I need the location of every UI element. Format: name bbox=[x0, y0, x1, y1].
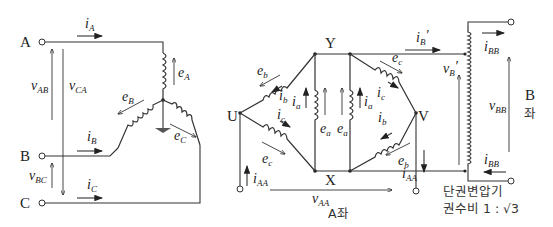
node-y-label: Y bbox=[325, 35, 336, 51]
label-vab: vAB bbox=[31, 78, 49, 95]
ground-icon bbox=[155, 128, 171, 133]
coil-uy bbox=[240, 54, 315, 113]
left-three-phase-source: A B C iA iB iC vAB vCA vBC eA bbox=[20, 16, 200, 211]
current-arrow-ic-right bbox=[388, 82, 398, 88]
label-ia-left: ia bbox=[292, 94, 301, 111]
label-iaa-left: iAA bbox=[253, 171, 268, 188]
autotransformer-caption: 단권변압기 bbox=[443, 184, 503, 199]
turns-ratio-caption: 권수비 1 : √3 bbox=[443, 201, 519, 216]
wire-b bbox=[45, 148, 118, 156]
terminal-aa-right bbox=[413, 188, 419, 194]
node-v-label: V bbox=[418, 108, 429, 124]
label-ibb-bottom: iBB bbox=[484, 152, 499, 169]
wire-b-top bbox=[468, 22, 508, 26]
autotransformer-coil bbox=[468, 26, 471, 166]
label-ic-right: ic bbox=[377, 85, 385, 102]
label-ea-left: ea bbox=[320, 121, 331, 138]
coil-ea-left bbox=[315, 54, 318, 171]
terminal-bb-top bbox=[508, 19, 514, 25]
terminal-bb-bottom bbox=[508, 178, 514, 184]
node-x-label: X bbox=[325, 172, 336, 188]
label-ib: iB bbox=[87, 129, 97, 146]
label-ec: eC bbox=[174, 128, 187, 145]
label-vbc: vBC bbox=[29, 168, 48, 185]
terminal-c-label: C bbox=[20, 195, 30, 211]
terminal-c bbox=[39, 200, 45, 206]
wire-c bbox=[45, 145, 200, 203]
label-ia: iA bbox=[85, 16, 95, 33]
label-iaa-right-text: iAA bbox=[402, 166, 417, 183]
label-ic: iC bbox=[87, 177, 98, 194]
middle-transformer-network: Y U V X eb ec i bbox=[227, 28, 465, 221]
label-ib-prime: iB′ bbox=[416, 28, 429, 47]
label-vca: vCA bbox=[69, 78, 87, 95]
terminal-a-label: A bbox=[20, 34, 31, 50]
terminal-b-label: B bbox=[20, 148, 30, 164]
label-ib-left: ib bbox=[279, 88, 288, 105]
label-eb-left: eb bbox=[257, 63, 268, 80]
label-vb-prime: vB′ bbox=[443, 59, 459, 78]
coil-ea-right bbox=[350, 54, 353, 171]
current-arrow-ib-right bbox=[381, 133, 392, 139]
terminal-aa-left bbox=[237, 186, 243, 192]
coil-b bbox=[118, 100, 163, 148]
label-ec-left: ec bbox=[262, 151, 272, 168]
seat-a-label: A좌 bbox=[328, 206, 349, 221]
terminal-b bbox=[39, 153, 45, 159]
seat-b-label-kr: 좌 bbox=[524, 106, 536, 121]
seat-b-label: B bbox=[525, 87, 535, 103]
label-ic-left: ic bbox=[277, 107, 285, 124]
transformer-circuit-diagram: A B C iA iB iC vAB vCA vBC eA bbox=[0, 0, 553, 227]
label-vbb: vBB bbox=[489, 98, 507, 115]
label-ea-right: ea bbox=[337, 121, 348, 138]
terminal-a bbox=[39, 39, 45, 45]
coil-a bbox=[163, 53, 166, 100]
label-ea: eA bbox=[178, 65, 190, 82]
autotransformer-b-seat: iBB iBB vB′ vBB B 좌 단권변압기 권수비 1 : √3 bbox=[443, 19, 536, 216]
label-ec-right: ec bbox=[392, 50, 402, 67]
label-eb: eB bbox=[122, 89, 134, 106]
label-ibb-top: iBB bbox=[484, 39, 499, 56]
node-u-label: U bbox=[227, 108, 238, 124]
label-ia-right: ia bbox=[364, 94, 373, 111]
label-ib-right: ib bbox=[378, 110, 387, 127]
